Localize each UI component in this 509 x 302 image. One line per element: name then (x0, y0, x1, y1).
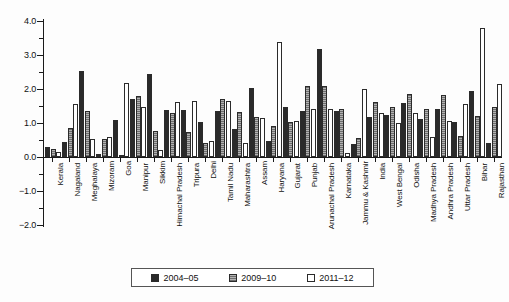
x-axis-label: Meghalaya (90, 163, 99, 201)
x-axis-label: Manipur (141, 163, 150, 191)
x-tick (120, 157, 121, 162)
x-axis-label: Sikkim (158, 161, 167, 184)
x-axis-label: Assam (260, 161, 269, 185)
x-axis-label: Mizoram (107, 161, 116, 191)
legend-item-2011-12: 2011–12 (307, 273, 353, 283)
x-axis-label: Haryana (277, 163, 286, 193)
x-axis-label: Gujarat (293, 163, 302, 189)
x-axis-label: Odisha (412, 163, 421, 188)
x-tick (409, 157, 410, 162)
legend-item-2004-05: 2004–05 (151, 273, 198, 283)
legend-item-2009-10: 2009–10 (229, 273, 276, 283)
x-tick (358, 157, 359, 162)
x-tick (324, 157, 325, 162)
x-axis-label: Kerala (56, 163, 65, 186)
x-axis-label: Andhra Pradesh (446, 163, 455, 219)
x-tick (188, 157, 189, 162)
legend-swatch-icon (151, 274, 159, 282)
x-axis-label: Goa (124, 161, 133, 176)
x-axis-label: Punjab (310, 163, 319, 187)
x-tick (239, 157, 240, 162)
x-tick (494, 157, 495, 162)
x-axis-label: Karnataka (344, 163, 353, 199)
x-axis-label: Arunachal Pradesh (327, 163, 336, 229)
x-tick (290, 157, 291, 162)
x-tick (171, 157, 172, 162)
x-tick (222, 157, 223, 162)
legend-swatch-icon (229, 274, 237, 282)
x-axis-label: Nagaland (73, 163, 82, 196)
x-axis-label: Himachal Pradesh (175, 163, 184, 227)
x-tick (392, 157, 393, 162)
x-axis-labels: KeralaNagalandMeghalayaMizoramGoaManipur… (0, 0, 509, 302)
legend: 2004–05 2009–10 2011–12 (131, 268, 374, 287)
x-tick (103, 157, 104, 162)
x-tick (86, 157, 87, 162)
x-axis-label: Madhya Pradesh (429, 163, 438, 222)
bar-chart: 4.0 3.0 2.0 1.0 0.0 −1.0 −2.0 KeralaNaga… (0, 0, 509, 302)
x-axis-label: Maharashtra (243, 163, 252, 207)
x-tick (154, 157, 155, 162)
x-tick (341, 157, 342, 162)
legend-label: 2009–10 (241, 273, 276, 283)
x-axis-label: India (378, 163, 387, 180)
x-tick (52, 157, 53, 162)
x-tick (137, 157, 138, 162)
x-tick (477, 157, 478, 162)
x-axis-label: West Bengal (395, 163, 404, 207)
x-axis-label: Rajasthan (497, 163, 506, 198)
legend-swatch-icon (307, 274, 315, 282)
x-tick (307, 157, 308, 162)
x-axis-label: Bihar (480, 163, 489, 181)
legend-label: 2004–05 (163, 273, 198, 283)
x-tick (375, 157, 376, 162)
x-axis-label: Jammu & Kashmir (361, 161, 370, 225)
x-tick (69, 157, 70, 162)
x-axis-label: Uttar Pradesh (463, 163, 472, 211)
x-tick (460, 157, 461, 162)
x-axis-label: Tripura (192, 163, 201, 187)
x-tick (256, 157, 257, 162)
x-tick (443, 157, 444, 162)
x-axis-label: Delhi (209, 161, 218, 179)
x-axis-label: Tamil Nadu (226, 163, 235, 202)
x-tick (205, 157, 206, 162)
x-tick (273, 157, 274, 162)
legend-label: 2011–12 (319, 273, 353, 283)
x-tick (426, 157, 427, 162)
